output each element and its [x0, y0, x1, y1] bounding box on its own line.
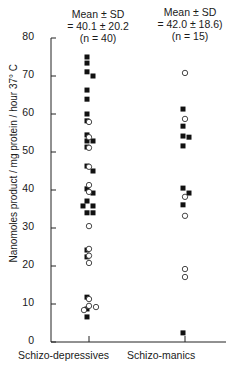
data-point-square: [181, 202, 186, 207]
data-point-square: [181, 107, 186, 112]
data-point-circle: [86, 296, 91, 301]
data-point-circle: [182, 194, 187, 199]
data-point-square: [181, 143, 186, 148]
data-point-circle: [86, 223, 91, 228]
data-points: [81, 55, 192, 336]
data-point-square: [85, 61, 90, 66]
data-point-square: [85, 112, 90, 117]
data-point-circle: [86, 246, 91, 251]
data-point-circle: [86, 119, 91, 124]
axes: [51, 38, 226, 342]
data-point-circle: [86, 164, 91, 169]
data-point-square: [85, 210, 90, 215]
data-point-circle: [182, 70, 187, 75]
data-point-square: [91, 74, 96, 79]
data-point-circle: [182, 274, 187, 279]
data-point-square: [85, 69, 90, 74]
data-point-square: [91, 210, 96, 215]
data-point-square: [81, 203, 86, 208]
data-point-square: [85, 88, 90, 93]
data-point-circle: [86, 253, 91, 258]
data-point-square: [181, 330, 186, 335]
y-ticks: [51, 38, 56, 342]
scatter-plot: [0, 0, 234, 368]
data-point-square: [85, 199, 90, 204]
data-point-circle: [182, 213, 187, 218]
data-point-circle: [93, 304, 98, 309]
data-point-square: [91, 203, 96, 208]
data-point-square: [85, 55, 90, 60]
data-point-circle: [86, 189, 91, 194]
data-point-circle: [81, 307, 86, 312]
data-point-circle: [86, 182, 91, 187]
data-point-circle: [86, 303, 91, 308]
data-point-square: [181, 186, 186, 191]
data-point-square: [85, 97, 90, 102]
data-point-circle: [182, 116, 187, 121]
data-point-circle: [182, 266, 187, 271]
data-point-circle: [86, 145, 91, 150]
data-point-square: [181, 124, 186, 129]
data-point-square: [187, 135, 192, 140]
data-point-circle: [86, 260, 91, 265]
data-point-square: [181, 134, 186, 139]
data-point-square: [91, 169, 96, 174]
data-point-square: [85, 314, 90, 319]
data-point-circle: [86, 134, 91, 139]
